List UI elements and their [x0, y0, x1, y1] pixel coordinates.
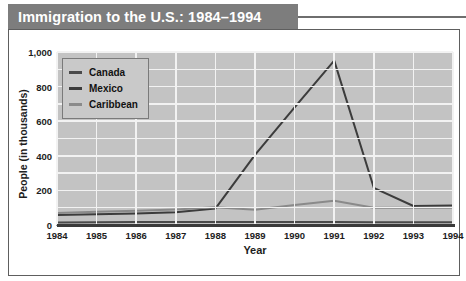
x-tick-label: 1993 — [403, 230, 424, 241]
page-title: Immigration to the U.S.: 1984–1994 — [18, 9, 262, 25]
legend-item-label: Caribbean — [89, 99, 138, 110]
x-tick-label: 1992 — [363, 230, 384, 241]
x-tick-label: 1994 — [442, 230, 463, 241]
gridline-vertical — [333, 52, 335, 225]
x-axis-line — [57, 224, 455, 227]
chart-region: 02004006008001,000 198419851986198719881… — [0, 0, 466, 281]
y-tick-label: 1,000 — [4, 47, 52, 58]
gridline-vertical — [215, 52, 217, 225]
x-tick-label: 1985 — [86, 230, 107, 241]
x-tick-label: 1987 — [165, 230, 186, 241]
legend-item-canada: Canada — [69, 65, 138, 80]
legend-line-swatch-icon — [69, 87, 82, 90]
x-tick-label: 1984 — [46, 230, 67, 241]
legend-line-swatch-icon — [69, 103, 82, 106]
gridline-vertical — [413, 52, 415, 225]
title-rule-divider — [296, 16, 466, 18]
chart-title-banner: Immigration to the U.S.: 1984–1994 — [8, 4, 298, 29]
legend-item-mexico: Mexico — [69, 81, 138, 96]
x-tick-label: 1990 — [284, 230, 305, 241]
legend-item-caribbean: Caribbean — [69, 97, 138, 112]
gridline-vertical — [294, 52, 296, 225]
gridline-vertical — [254, 52, 256, 225]
chart-page: Immigration to the U.S.: 1984–1994 02004… — [0, 0, 466, 281]
y-tick-label: 0 — [4, 220, 52, 231]
gridline-vertical — [56, 52, 58, 225]
x-tick-label: 1988 — [205, 230, 226, 241]
x-tick-label: 1989 — [244, 230, 265, 241]
gridline-vertical — [373, 52, 375, 225]
gridline-vertical — [452, 52, 454, 225]
x-tick-label: 1986 — [126, 230, 147, 241]
legend-line-swatch-icon — [69, 71, 82, 74]
x-tick-label: 1991 — [324, 230, 345, 241]
chart-legend: CanadaMexicoCaribbean — [62, 58, 149, 119]
legend-item-label: Mexico — [89, 83, 123, 94]
gridline-vertical — [175, 52, 177, 225]
x-axis-title: Year — [57, 244, 453, 256]
legend-item-label: Canada — [89, 67, 125, 78]
y-axis-title: People (in thousands) — [17, 74, 29, 214]
